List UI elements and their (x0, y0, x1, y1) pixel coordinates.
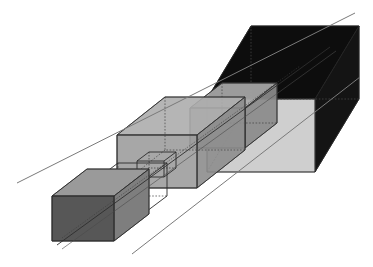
figure-root: Nested axis-aligned bounding boxes along… (0, 0, 373, 267)
nested-boxes-diagram (0, 0, 373, 267)
